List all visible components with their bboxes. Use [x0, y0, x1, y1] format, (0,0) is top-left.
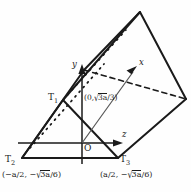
- far-triangle-visible-edges: [84, 12, 186, 99]
- lateral-edge-apex: [63, 12, 140, 100]
- right-coord-prefix: (a/2, −: [100, 170, 127, 179]
- left-radical-sign: √: [36, 170, 41, 180]
- x-axis-label: x: [139, 58, 144, 67]
- origin-label: O: [84, 144, 91, 153]
- x-axis-arrowhead: [127, 66, 138, 74]
- apex-radical-sign: √: [94, 93, 99, 102]
- left-coord-prefix: (−a/2, −: [2, 170, 36, 179]
- near-triangle: [22, 100, 118, 158]
- left-coord-denom: /6): [50, 170, 61, 179]
- y-axis-label: y: [72, 60, 77, 69]
- prism-figure: y z x O T1 T2 T3 (0,√3a/3) (−a/2, −√3a/6…: [0, 0, 191, 192]
- right-radical-sign: √: [127, 170, 132, 180]
- apex-coord-denom: /3): [107, 93, 117, 102]
- right-coordinate-label: (a/2, −√3a/6): [100, 170, 152, 179]
- apex-coord-prefix: (0,: [84, 93, 94, 102]
- vertex-label-t1: T1: [48, 93, 58, 104]
- left-coordinate-label: (−a/2, −√3a/6): [2, 170, 61, 179]
- right-radicand: 3a: [132, 170, 142, 179]
- apex-radicand: 3a: [98, 93, 107, 102]
- vertex-label-t3-sub: 3: [126, 159, 130, 167]
- hidden-dotted-edge: [30, 64, 104, 148]
- right-coord-denom: /6): [141, 170, 152, 179]
- z-axis-arrowhead: [113, 139, 123, 146]
- vertex-label-t3: T3: [120, 155, 130, 166]
- left-radicand: 3a: [40, 170, 50, 179]
- vertex-label-t1-sub: 1: [54, 97, 58, 105]
- lateral-edge-right: [118, 99, 186, 158]
- apex-coordinate-label: (0,√3a/3): [84, 93, 117, 102]
- vertex-label-t2: T2: [5, 155, 15, 166]
- z-axis-label: z: [122, 130, 126, 139]
- vertex-label-t2-sub: 2: [11, 159, 15, 167]
